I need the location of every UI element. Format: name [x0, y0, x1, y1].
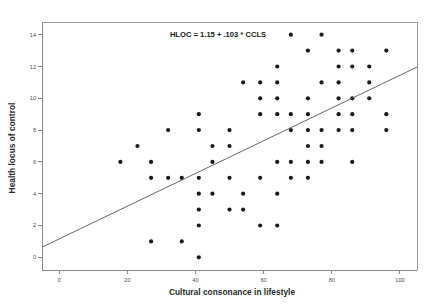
data-point: [210, 192, 214, 196]
data-point: [289, 160, 293, 164]
y-tick-label-10: 10: [30, 95, 36, 101]
data-point: [149, 239, 153, 243]
data-point: [350, 160, 354, 164]
data-point: [258, 112, 262, 116]
x-tick-label-0: 0: [57, 277, 60, 283]
data-point: [275, 112, 279, 116]
data-point: [367, 80, 371, 84]
data-point: [180, 239, 184, 243]
data-point: [258, 96, 262, 100]
data-point: [319, 160, 323, 164]
data-point: [384, 49, 388, 53]
data-point: [118, 160, 122, 164]
data-point: [241, 80, 245, 84]
data-point: [319, 128, 323, 132]
data-point: [336, 49, 340, 53]
data-point: [227, 207, 231, 211]
data-point: [350, 64, 354, 68]
data-point: [319, 144, 323, 148]
y-tick-label-2: 2: [33, 222, 36, 228]
scatter-plot-figure: 02040608010002468101214 HLOC = 1.15 + .1…: [0, 0, 436, 306]
data-point: [197, 207, 201, 211]
data-point: [275, 64, 279, 68]
data-point: [258, 80, 262, 84]
data-point: [227, 128, 231, 132]
data-point: [306, 128, 310, 132]
data-point: [289, 33, 293, 37]
data-point: [367, 96, 371, 100]
y-tick-label-8: 8: [33, 127, 36, 133]
data-point: [306, 176, 310, 180]
data-point: [197, 112, 201, 116]
data-point: [258, 223, 262, 227]
data-point: [166, 128, 170, 132]
x-tick-label-80: 80: [329, 277, 335, 283]
y-tick-label-6: 6: [33, 159, 36, 165]
data-point: [306, 49, 310, 53]
y-tick-label-14: 14: [30, 32, 36, 38]
axis-tick-labels: 02040608010002468101214: [30, 32, 405, 283]
data-point: [197, 223, 201, 227]
data-point: [319, 33, 323, 37]
data-point: [258, 176, 262, 180]
x-axis-title: Cultural consonance in lifestyle: [169, 287, 295, 297]
data-point: [350, 49, 354, 53]
data-point: [227, 144, 231, 148]
data-point: [166, 176, 170, 180]
data-point: [289, 112, 293, 116]
data-point: [336, 80, 340, 84]
y-tick-label-12: 12: [30, 64, 36, 70]
data-point: [306, 160, 310, 164]
x-tick-label-20: 20: [124, 277, 130, 283]
data-point: [275, 96, 279, 100]
data-point: [135, 144, 139, 148]
regression-equation-annotation: HLOC = 1.15 + .103 * CCLS: [170, 30, 266, 39]
data-point: [149, 176, 153, 180]
axis-ticks: [38, 35, 400, 274]
data-point: [241, 207, 245, 211]
data-point: [336, 96, 340, 100]
y-tick-label-0: 0: [33, 254, 36, 260]
x-tick-label-40: 40: [192, 277, 198, 283]
data-point: [350, 112, 354, 116]
data-point: [289, 176, 293, 180]
data-point: [319, 80, 323, 84]
data-point: [350, 128, 354, 132]
data-point: [306, 144, 310, 148]
data-point: [210, 144, 214, 148]
regression-line: [42, 67, 417, 247]
y-axis-title: Health locus of control: [7, 103, 17, 194]
data-point: [367, 64, 371, 68]
data-point: [275, 192, 279, 196]
data-point: [241, 192, 245, 196]
data-point: [336, 112, 340, 116]
data-point: [275, 223, 279, 227]
data-point: [197, 176, 201, 180]
regression-fit-line: [42, 67, 417, 247]
x-tick-label-100: 100: [395, 277, 404, 283]
x-tick-label-60: 60: [260, 277, 266, 283]
data-point: [336, 64, 340, 68]
data-point: [197, 255, 201, 259]
data-point: [227, 176, 231, 180]
plot-canvas: 02040608010002468101214 HLOC = 1.15 + .1…: [0, 0, 436, 306]
data-point: [336, 128, 340, 132]
y-tick-label-4: 4: [33, 191, 36, 197]
data-point: [384, 112, 388, 116]
data-point: [306, 96, 310, 100]
data-point: [306, 112, 310, 116]
data-point: [197, 192, 201, 196]
data-point: [384, 128, 388, 132]
data-point: [149, 160, 153, 164]
data-point: [197, 128, 201, 132]
data-point: [275, 80, 279, 84]
data-point: [210, 160, 214, 164]
data-point: [275, 160, 279, 164]
